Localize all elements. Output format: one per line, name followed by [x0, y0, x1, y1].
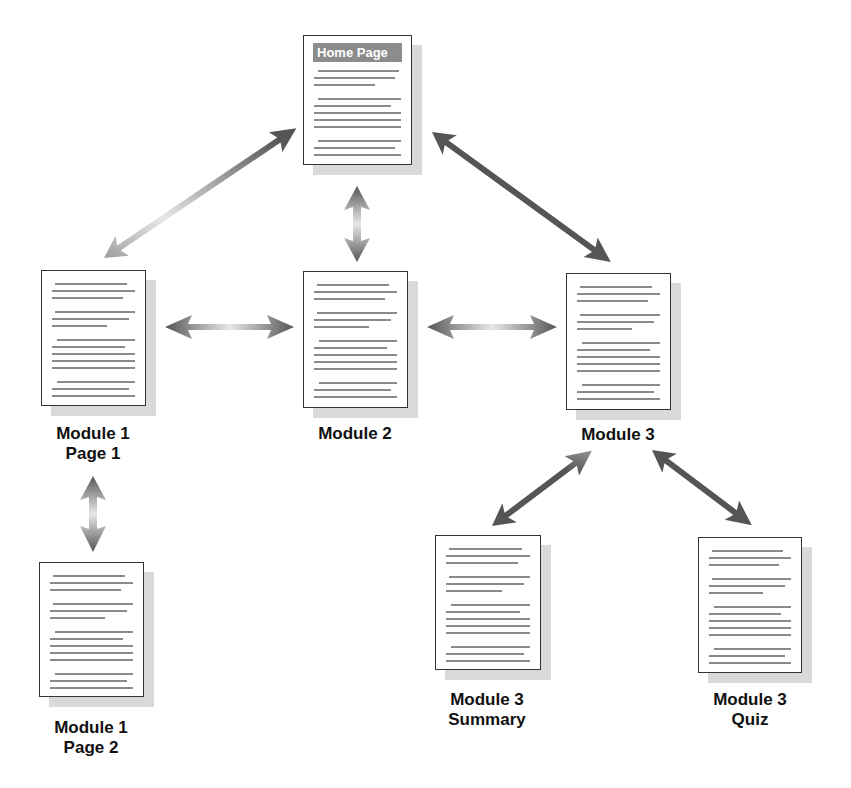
label-line-1: Module 3 [543, 425, 693, 445]
document-page [698, 537, 802, 673]
document-page [435, 535, 541, 670]
arrow-module1-page1-to-page2 [80, 476, 106, 552]
label-line-2: Summary [412, 710, 562, 730]
module3-quiz-label: Module 3 Quiz [675, 690, 825, 730]
label-line-1: Module 2 [280, 424, 430, 444]
arrow-module3-to-quiz [645, 440, 759, 534]
module3-summary-label: Module 3 Summary [412, 690, 562, 730]
module1-page2-label: Module 1 Page 2 [16, 718, 166, 758]
document-page [39, 562, 144, 697]
document-page [41, 270, 146, 406]
document-page [303, 271, 408, 408]
label-line-1: Module 1 [18, 424, 168, 444]
label-line-2: Quiz [675, 710, 825, 730]
arrow-module3-to-summary [485, 441, 599, 535]
home-page-title: Home Page [313, 43, 402, 62]
module2-label: Module 2 [280, 424, 430, 444]
module1-page2-document[interactable] [39, 562, 144, 697]
label-line-2: Page 1 [18, 444, 168, 464]
arrow-home-to-module3 [425, 122, 618, 271]
arrow-home-to-module2 [344, 186, 370, 262]
label-line-1: Module 3 [412, 690, 562, 710]
module2-document[interactable] [303, 271, 408, 408]
module3-document[interactable] [566, 273, 671, 410]
label-line-1: Module 3 [675, 690, 825, 710]
document-page [566, 273, 671, 410]
arrow-module2-to-module3 [427, 315, 557, 339]
arrow-home-to-module1-page1 [97, 118, 303, 268]
home-page-document[interactable]: Home Page [303, 35, 412, 165]
module3-label: Module 3 [543, 425, 693, 445]
label-line-1: Module 1 [16, 718, 166, 738]
module3-summary-document[interactable] [435, 535, 541, 670]
label-line-2: Page 2 [16, 738, 166, 758]
module1-page1-label: Module 1 Page 1 [18, 424, 168, 464]
module3-quiz-document[interactable] [698, 537, 802, 673]
document-page: Home Page [303, 35, 412, 165]
module1-page1-document[interactable] [41, 270, 146, 406]
arrow-module1-to-module2 [165, 315, 294, 339]
